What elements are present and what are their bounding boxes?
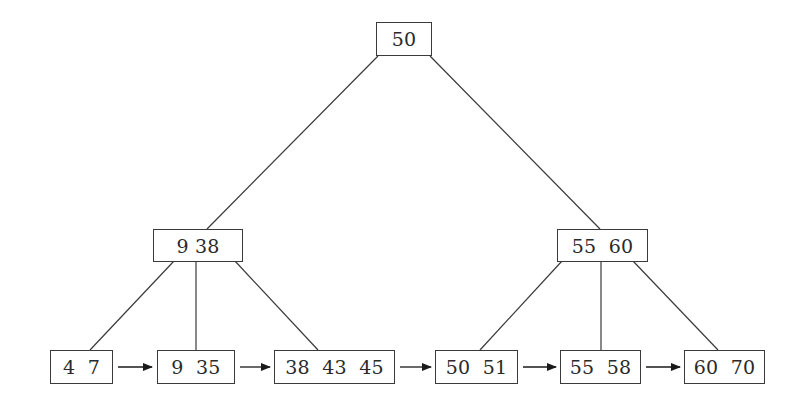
edge-int-right-leaf-6 <box>633 261 718 350</box>
edge-int-left-leaf-1 <box>90 261 174 350</box>
leaf-node-6: 60 70 <box>684 350 765 384</box>
leaf-node-6-keys: 60 70 <box>694 356 756 378</box>
leaf-node-3-keys: 38 43 45 <box>285 356 384 378</box>
tree-edges <box>0 0 804 403</box>
leaf-node-2-keys: 9 35 <box>171 356 220 378</box>
edge-int-right-leaf-4 <box>480 261 562 350</box>
leaf-node-1-keys: 4 7 <box>63 356 100 378</box>
internal-node-left-keys: 9 38 <box>176 235 219 257</box>
leaf-node-4: 50 51 <box>435 350 518 384</box>
edge-int-left-leaf-3 <box>235 261 318 350</box>
leaf-node-2: 9 35 <box>157 350 235 384</box>
root-node-keys: 50 <box>392 28 417 50</box>
root-node: 50 <box>376 22 432 56</box>
bplus-tree-diagram: 50 9 38 55 60 4 7 9 35 38 43 45 50 51 55… <box>0 0 804 403</box>
leaf-node-4-keys: 50 51 <box>446 356 508 378</box>
edge-root-int-left <box>207 56 378 229</box>
internal-node-left: 9 38 <box>153 229 243 262</box>
internal-node-right-keys: 55 60 <box>572 235 634 257</box>
internal-node-right: 55 60 <box>557 229 648 262</box>
edge-root-int-right <box>430 56 600 229</box>
leaf-node-1: 4 7 <box>50 350 113 384</box>
leaf-node-3: 38 43 45 <box>274 350 395 384</box>
leaf-node-5-keys: 55 58 <box>570 356 632 378</box>
leaf-node-5: 55 58 <box>560 350 641 384</box>
